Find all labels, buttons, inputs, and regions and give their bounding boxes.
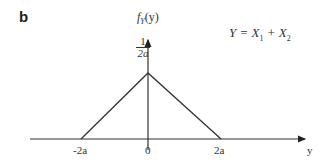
equation-label: Y = X1 + X2 — [229, 25, 291, 43]
peak-value-label: 1 2a — [136, 36, 150, 59]
tick-zero: 0 — [145, 144, 151, 156]
x-axis-label: y — [307, 144, 313, 156]
y-axis-label: fY(y) — [137, 10, 159, 26]
tick-neg-2a: -2a — [73, 144, 87, 156]
tick-pos-2a: 2a — [214, 144, 224, 156]
pdf-triangle — [81, 73, 221, 139]
